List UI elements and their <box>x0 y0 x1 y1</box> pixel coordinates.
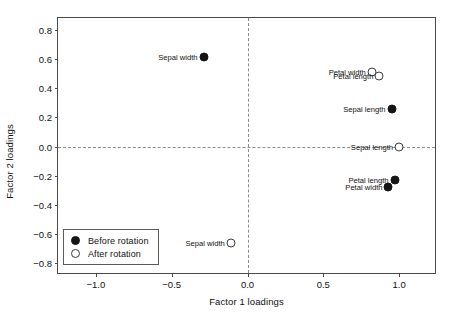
y-tick-mark <box>55 30 59 31</box>
y-tick-mark <box>55 88 59 89</box>
factor-loadings-scatter-figure: Factor 2 loadings Factor 1 loadings 0.80… <box>0 0 451 323</box>
y-tick-label: −0.8 <box>33 258 52 269</box>
y-tick-mark <box>55 263 59 264</box>
data-point-label: Petal length <box>333 72 373 81</box>
y-tick-label: 0.0 <box>39 141 52 152</box>
data-point-label: Petal width <box>345 183 382 192</box>
x-tick-mark <box>323 273 324 277</box>
data-point-label: Sepal length <box>351 142 393 151</box>
y-axis-label: Factor 2 loadings <box>0 0 18 323</box>
y-tick-label: 0.8 <box>39 24 52 35</box>
y-tick-mark <box>55 59 59 60</box>
x-tick-label: −1.0 <box>87 279 106 290</box>
data-point-label: Sepal width <box>186 238 225 247</box>
filled-circle-icon <box>71 236 80 245</box>
data-point-marker <box>384 183 393 192</box>
x-tick-label: 0.0 <box>241 279 254 290</box>
legend-item-label: After rotation <box>88 249 141 259</box>
y-tick-mark <box>55 205 59 206</box>
y-tick-label: −0.4 <box>33 199 52 210</box>
x-tick-mark <box>399 273 400 277</box>
vertical-reference-line <box>248 18 249 273</box>
data-point-marker <box>226 238 235 247</box>
open-circle-icon <box>71 249 80 258</box>
x-tick-mark <box>96 273 97 277</box>
data-point-marker <box>387 104 396 113</box>
y-tick-label: 0.4 <box>39 83 52 94</box>
legend-item-label: Before rotation <box>88 236 149 246</box>
data-point-marker <box>199 53 208 62</box>
x-tick-label: 1.0 <box>392 279 405 290</box>
data-point-marker <box>395 142 404 151</box>
legend-item[interactable]: Before rotation <box>71 234 149 247</box>
legend-item[interactable]: After rotation <box>71 247 149 260</box>
data-point-marker <box>375 72 384 81</box>
x-tick-mark <box>172 273 173 277</box>
x-tick-label: −0.5 <box>162 279 181 290</box>
x-tick-label: 0.5 <box>317 279 330 290</box>
y-tick-label: 0.6 <box>39 53 52 64</box>
legend: Before rotationAfter rotation <box>63 229 159 265</box>
x-tick-mark <box>248 273 249 277</box>
y-tick-label: −0.6 <box>33 229 52 240</box>
y-tick-label: −0.2 <box>33 170 52 181</box>
y-tick-mark <box>55 234 59 235</box>
x-axis-label: Factor 1 loadings <box>57 296 436 307</box>
y-tick-label: 0.2 <box>39 112 52 123</box>
y-tick-mark <box>55 176 59 177</box>
y-tick-mark <box>55 117 59 118</box>
data-point-label: Sepal width <box>158 53 197 62</box>
data-point-label: Sepal length <box>343 104 385 113</box>
